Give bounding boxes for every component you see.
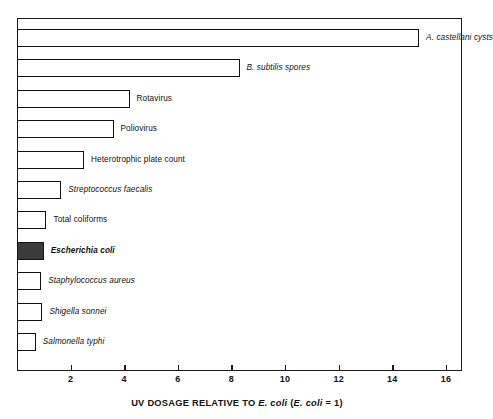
bar-row: Rotavirus bbox=[17, 90, 462, 108]
x-axis-tick bbox=[178, 365, 179, 371]
bar-rect[interactable] bbox=[17, 151, 84, 169]
x-axis-tick-label: 10 bbox=[280, 374, 290, 384]
bar-label: Shigella sonnei bbox=[49, 307, 106, 315]
x-axis-tick bbox=[285, 365, 286, 371]
bar-row: Streptococcus faecalis bbox=[17, 181, 462, 199]
x-axis-tick bbox=[446, 365, 447, 371]
bar-label: A. castellani cysts bbox=[426, 34, 493, 42]
bar-label: Salmonella typhi bbox=[43, 338, 105, 346]
x-axis-title-species-2: E. coli bbox=[294, 398, 323, 408]
bar-row: Staphylococcus aureus bbox=[17, 272, 462, 290]
x-axis-tick bbox=[124, 365, 125, 371]
bar-label: Streptococcus faecalis bbox=[68, 186, 152, 194]
bar-rect[interactable] bbox=[17, 333, 36, 351]
bar-label: Rotavirus bbox=[137, 95, 172, 103]
x-axis-tick bbox=[231, 365, 232, 371]
bar-row: B. subtilis spores bbox=[17, 59, 462, 77]
bar-rect[interactable] bbox=[17, 59, 240, 77]
bar-rect[interactable] bbox=[17, 90, 130, 108]
bar-label: B. subtilis spores bbox=[247, 64, 311, 72]
x-axis-tick bbox=[392, 365, 393, 371]
bar-rect[interactable] bbox=[17, 120, 114, 138]
x-axis-tick bbox=[339, 365, 340, 371]
bar-row: Poliovirus bbox=[17, 120, 462, 138]
x-axis-tick-label: 14 bbox=[387, 374, 397, 384]
bars-layer: A. castellani cystsB. subtilis sporesRot… bbox=[17, 18, 462, 371]
x-axis-title: UV DOSAGE RELATIVE TO E. coli (E. coli =… bbox=[0, 398, 474, 408]
x-axis-tick-label: 12 bbox=[333, 374, 343, 384]
x-axis-tick-label: 8 bbox=[229, 374, 234, 384]
bar-row: Escherichia coli bbox=[17, 242, 462, 260]
bar-rect[interactable] bbox=[17, 29, 419, 47]
bar-row: Salmonella typhi bbox=[17, 333, 462, 351]
bar-label: Total coliforms bbox=[53, 216, 107, 224]
bar-row: Total coliforms bbox=[17, 211, 462, 229]
x-axis-title-species-1: E. coli bbox=[258, 398, 287, 408]
bar-rect[interactable] bbox=[17, 303, 42, 321]
bar-label: Escherichia coli bbox=[51, 247, 115, 255]
bar-rect[interactable] bbox=[17, 272, 41, 290]
bar-rect[interactable] bbox=[17, 211, 46, 229]
bar-row: Heterotrophic plate count bbox=[17, 151, 462, 169]
x-axis-title-tail: = 1) bbox=[323, 398, 343, 408]
bar-label: Poliovirus bbox=[121, 125, 158, 133]
bar-rect[interactable] bbox=[17, 181, 61, 199]
x-axis-tick-label: 6 bbox=[175, 374, 180, 384]
x-axis-title-lead: UV DOSAGE RELATIVE TO bbox=[131, 398, 258, 408]
bar-rect[interactable] bbox=[17, 242, 44, 260]
bar-row: A. castellani cysts bbox=[17, 29, 462, 47]
x-axis-tick-label: 16 bbox=[441, 374, 451, 384]
bar-row: Shigella sonnei bbox=[17, 303, 462, 321]
bar-label: Heterotrophic plate count bbox=[91, 155, 185, 163]
x-axis-tick-label: 4 bbox=[122, 374, 127, 384]
bar-label: Staphylococcus aureus bbox=[48, 277, 135, 285]
x-axis-tick-label: 2 bbox=[68, 374, 73, 384]
x-axis-tick bbox=[71, 365, 72, 371]
